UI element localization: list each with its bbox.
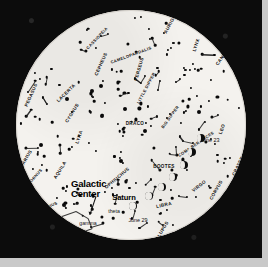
constellation-line [139,223,147,229]
constellation-line [179,196,188,198]
star [36,153,39,156]
moon-lit-portion [180,161,185,169]
constellation-label-lynx: LYNX [192,38,201,52]
star [141,133,144,136]
sky-disc: CASSIOPEIACAMELOPARDALISCEPHEUSPERSEUSAU… [16,10,246,240]
star [77,81,80,84]
star [115,70,118,73]
star [156,67,158,69]
star [188,98,191,101]
star [138,107,141,110]
star [217,160,220,163]
constellation-label-hydra: HYDRA [204,215,221,230]
star [152,146,155,149]
star [139,16,141,18]
star [147,105,149,107]
constellation-line [74,203,78,205]
star [167,49,169,51]
star [93,100,96,103]
star [34,72,36,74]
annotation-galactic-center: Galactic Center [71,179,117,198]
star [45,169,48,172]
star [191,63,193,65]
moon-phase-marker [188,148,196,156]
star [57,135,60,138]
constellation-label-cygnus: CYGNUS [64,102,80,123]
star [238,107,240,109]
moon-phase-marker [158,183,166,191]
star [90,89,94,93]
star [186,169,188,171]
constellation-line [26,110,32,117]
star [150,125,152,127]
star [187,105,190,108]
star [171,197,174,200]
star [68,148,71,151]
constellation-line [43,98,48,105]
star [226,175,229,178]
star [214,143,216,145]
star [117,123,119,125]
star [128,187,130,189]
star [122,131,125,134]
star [104,102,106,104]
moon-lit-portion [158,183,164,191]
constellation-label-leo: LEO [218,123,226,135]
star [87,27,90,30]
constellation-label-draco: DRACO [126,121,145,126]
constellation-label-aquarius: AQUARIUS [16,149,33,175]
star [20,122,22,124]
constellation-line [175,79,179,82]
star [112,217,115,220]
star [196,95,198,97]
star [56,197,58,199]
star [200,105,202,107]
star [216,95,219,98]
constellation-line [170,154,177,156]
star [195,196,197,198]
constellation-line [145,180,151,186]
star [188,69,190,71]
star [143,129,147,133]
star [95,47,97,49]
star [197,110,201,114]
constellation-label-cepheus: CEPHEUS [94,52,109,77]
star [200,67,203,70]
star [181,99,184,102]
star [32,168,34,170]
star [122,128,125,131]
star [39,78,41,80]
annotation-june-29: June 29 [128,217,147,223]
moon-phase-marker [180,161,188,169]
constellation-label-lyra: LYRA [75,130,84,144]
star [135,181,137,183]
star [190,87,192,89]
constellation-line [152,38,156,45]
constellation-line [199,122,205,130]
star [34,116,37,119]
moon-phase-marker [129,202,137,210]
star [39,143,43,147]
star [172,224,174,226]
star [111,68,113,70]
star [51,121,54,124]
moon-lit-portion [129,202,136,210]
moon-lit-portion [188,148,192,156]
moon-lit-portion [169,173,175,181]
star [38,118,41,121]
star [145,122,147,124]
annotation-theta: theta [108,208,120,214]
star [117,81,120,84]
constellation-label-cancer: CANCER [215,46,232,67]
star [118,130,121,133]
star [173,42,175,44]
star [120,151,122,153]
star [123,107,127,111]
star [209,187,212,190]
star [72,137,75,140]
star [66,185,68,187]
star [120,70,123,73]
constellation-label-crater: CRATER [231,156,245,177]
star [113,155,115,157]
constellation-line [124,93,128,94]
